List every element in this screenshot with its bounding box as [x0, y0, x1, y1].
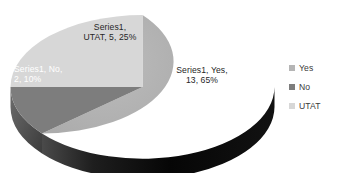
pie-chart: Series1, Yes, 13, 65% Series1, UTAT, 5, …	[0, 0, 342, 173]
legend-swatch-yes-icon	[289, 65, 295, 71]
legend-label-no: No	[299, 82, 310, 92]
data-label-no-line2: 2, 10%	[14, 74, 92, 84]
legend-item-utat[interactable]: UTAT	[289, 96, 339, 115]
legend-swatch-no-icon	[289, 84, 295, 90]
data-label-utat-line2: UTAT, 5, 25%	[62, 32, 158, 42]
pie-plot-area: Series1, Yes, 13, 65% Series1, UTAT, 5, …	[0, 0, 285, 173]
data-label-utat-line1: Series1,	[62, 22, 158, 32]
data-label-no: Series1, No, 2, 10%	[14, 64, 92, 85]
chart-legend: Yes No UTAT	[289, 58, 339, 115]
data-label-yes: Series1, Yes, 13, 65%	[154, 65, 250, 86]
data-label-yes-line1: Series1, Yes,	[154, 65, 250, 75]
data-label-yes-line2: 13, 65%	[154, 75, 250, 85]
data-label-no-line1: Series1, No,	[14, 64, 92, 74]
legend-swatch-utat-icon	[289, 103, 295, 109]
legend-label-yes: Yes	[299, 63, 313, 73]
legend-item-no[interactable]: No	[289, 77, 339, 96]
legend-label-utat: UTAT	[299, 101, 321, 111]
data-label-utat: Series1, UTAT, 5, 25%	[62, 22, 158, 43]
legend-item-yes[interactable]: Yes	[289, 58, 339, 77]
